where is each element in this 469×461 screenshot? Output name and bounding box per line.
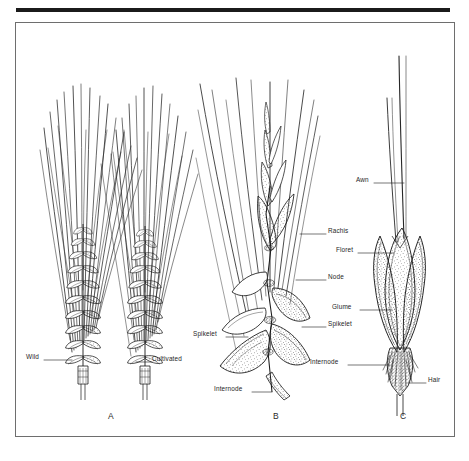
label-hair: Hair [428,376,440,383]
figure-root: Wild Cultivated Rachis Node Spikelet Spi… [0,0,469,461]
panel-c-illustration [374,56,426,416]
label-internode-c: Internode [310,358,338,365]
label-spikelet-left: Spikelet [193,330,217,337]
label-floret: Floret [336,246,353,253]
label-spikelet-right: Spikelet [328,320,352,327]
panel-b-illustration [196,78,320,400]
label-internode-b: Internode [214,385,242,392]
label-cultivated: Cultivated [152,355,182,362]
panel-a-illustration [40,84,198,400]
label-node: Node [328,273,344,280]
label-glume: Glume [332,303,352,310]
label-rachis: Rachis [328,227,348,234]
spike-cultivated [101,86,198,400]
panel-letter-b: B [273,411,279,421]
panel-letter-c: C [400,411,406,421]
label-wild: Wild [26,353,39,360]
label-awn: Awn [356,176,369,183]
spike-wild [40,84,142,400]
panel-letter-a: A [108,411,114,421]
